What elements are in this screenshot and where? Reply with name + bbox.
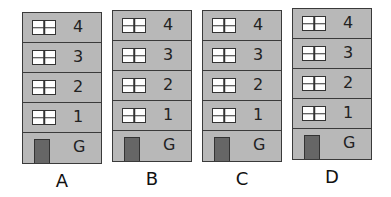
- door-icon: [304, 135, 320, 159]
- floor-label: 3: [253, 45, 263, 64]
- floor-label: 4: [73, 17, 83, 36]
- floor-label: G: [163, 135, 175, 154]
- floor-1: 1: [203, 101, 281, 131]
- floor-label: 3: [343, 43, 353, 62]
- window-icon: [32, 50, 56, 65]
- floor-label: 4: [253, 15, 263, 34]
- floor-1: 1: [23, 103, 101, 133]
- floor-2: 2: [23, 73, 101, 103]
- building-c: 4321G: [202, 10, 282, 162]
- building-label: C: [202, 168, 282, 189]
- window-icon: [32, 110, 56, 125]
- floor-3: 3: [113, 41, 191, 71]
- floor-4: 4: [113, 11, 191, 41]
- floor-2: 2: [113, 71, 191, 101]
- window-icon: [212, 18, 236, 33]
- window-icon: [122, 78, 146, 93]
- window-icon: [122, 108, 146, 123]
- floor-4: 4: [203, 11, 281, 41]
- floor-label: 2: [253, 75, 263, 94]
- floor-2: 2: [203, 71, 281, 101]
- window-icon: [302, 16, 326, 31]
- floor-3: 3: [293, 39, 371, 69]
- floor-label: 2: [163, 75, 173, 94]
- floor-label: 1: [343, 103, 353, 122]
- floor-label: G: [253, 135, 265, 154]
- floor-3: 3: [203, 41, 281, 71]
- floor-1: 1: [113, 101, 191, 131]
- floor-label: 2: [343, 73, 353, 92]
- floor-label: 1: [253, 105, 263, 124]
- building-label: B: [112, 168, 192, 189]
- window-icon: [212, 108, 236, 123]
- floor-label: G: [73, 137, 85, 156]
- floor-1: 1: [293, 99, 371, 129]
- window-icon: [32, 20, 56, 35]
- window-icon: [212, 48, 236, 63]
- floor-g: G: [113, 131, 191, 161]
- floor-2: 2: [293, 69, 371, 99]
- floor-g: G: [203, 131, 281, 161]
- building-b: 4321G: [112, 10, 192, 162]
- floor-4: 4: [293, 9, 371, 39]
- floor-3: 3: [23, 43, 101, 73]
- floor-label: 4: [343, 13, 353, 32]
- building-d: 4321G: [292, 8, 372, 160]
- floor-label: 3: [163, 45, 173, 64]
- building-a: 4321G: [22, 12, 102, 164]
- floor-label: 1: [73, 107, 83, 126]
- building-label: D: [292, 166, 372, 187]
- window-icon: [302, 106, 326, 121]
- floor-4: 4: [23, 13, 101, 43]
- floor-label: 2: [73, 77, 83, 96]
- floor-label: G: [343, 133, 355, 152]
- door-icon: [124, 137, 140, 161]
- floor-label: 4: [163, 15, 173, 34]
- floor-label: 1: [163, 105, 173, 124]
- window-icon: [302, 46, 326, 61]
- floor-g: G: [293, 129, 371, 159]
- window-icon: [302, 76, 326, 91]
- floor-label: 3: [73, 47, 83, 66]
- floor-g: G: [23, 133, 101, 163]
- window-icon: [212, 78, 236, 93]
- door-icon: [214, 137, 230, 161]
- window-icon: [122, 48, 146, 63]
- door-icon: [34, 139, 50, 163]
- window-icon: [122, 18, 146, 33]
- building-label: A: [22, 170, 102, 191]
- window-icon: [32, 80, 56, 95]
